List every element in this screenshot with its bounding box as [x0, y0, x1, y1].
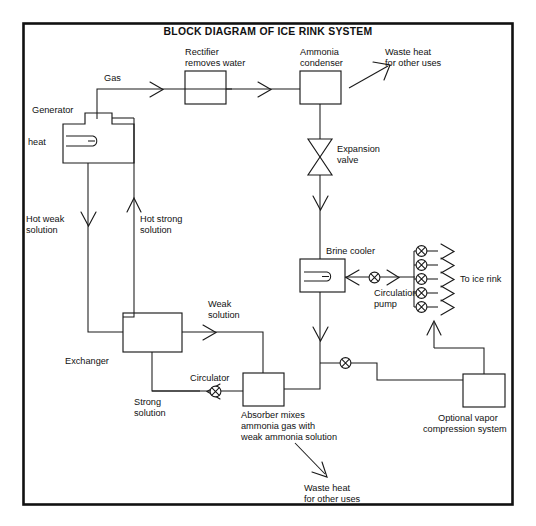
block-generator	[63, 113, 134, 163]
icon-circulation-pump	[369, 272, 380, 283]
label-expansion-line1: Expansion	[337, 144, 380, 154]
label-absorber-line3: weak ammonia solution	[240, 432, 337, 442]
block-rectifier	[185, 71, 226, 104]
label-exchanger: Exchanger	[65, 356, 109, 366]
icon-expansion-valve	[308, 139, 332, 175]
label-waste-heat-bottom-line1: Waste heat	[304, 483, 351, 493]
label-circulator: Circulator	[190, 373, 229, 383]
pipe-vapor-riser-horizontal	[434, 348, 484, 374]
block-ammonia-condenser	[300, 71, 341, 104]
label-waste-heat-top-line2: for other uses	[385, 58, 442, 68]
label-absorber-line2: ammonia gas with	[241, 421, 315, 431]
pipe-hot-strong-solution	[123, 118, 134, 317]
diagram-canvas: BLOCK DIAGRAM OF ICE RINK SYSTEM Gas Rec…	[0, 0, 536, 526]
label-vapor-line2: compression system	[423, 424, 507, 434]
label-heat: heat	[28, 137, 46, 147]
label-strong-line1: Strong	[134, 397, 161, 407]
label-hot-weak-line2: solution	[26, 225, 58, 235]
manifold-branch	[414, 258, 454, 273]
block-vapor-compression	[463, 374, 505, 407]
block-absorber	[243, 373, 284, 406]
label-weak-line1: Weak	[208, 299, 232, 309]
label-gas: Gas	[104, 73, 121, 83]
label-hot-strong-line2: solution	[140, 225, 172, 235]
pipe-absorber-to-riser	[284, 363, 320, 389]
block-exchanger	[123, 313, 182, 352]
block-diagram-svg: BLOCK DIAGRAM OF ICE RINK SYSTEM Gas Rec…	[0, 0, 536, 526]
label-hot-strong-line1: Hot strong	[140, 214, 182, 224]
icon-low-pressure-valve	[340, 358, 351, 369]
pipe-weak-solution	[182, 332, 263, 373]
label-circulation-line1: Circulation	[374, 288, 417, 298]
pipe-hot-weak-solution	[88, 163, 123, 332]
label-circulation-line2: pump	[374, 299, 397, 309]
label-waste-heat-bottom-line2: for other uses	[304, 494, 361, 504]
label-to-ice-rink: To ice rink	[460, 274, 502, 284]
pipe-exchanger-to-strong	[152, 352, 200, 391]
label-vapor-line1: Optional vapor	[438, 413, 498, 423]
manifold-branch	[414, 286, 454, 301]
label-rectifier-line2: removes water	[185, 58, 245, 68]
manifold-branch	[414, 300, 454, 315]
label-generator: Generator	[32, 105, 73, 115]
icon-circulator-pump	[210, 386, 221, 397]
arrow-waste-heat-top	[349, 66, 388, 88]
label-condenser-line1: Ammonia	[300, 47, 340, 57]
block-brine-cooler	[300, 259, 345, 292]
label-condenser-line2: condenser	[300, 58, 343, 68]
label-expansion-line2: valve	[337, 155, 358, 165]
label-absorber-line1: Absorber mixes	[241, 410, 305, 420]
arrow-waste-heat-bottom	[295, 443, 325, 474]
label-brine-cooler: Brine cooler	[326, 246, 375, 256]
manifold-branch	[414, 272, 454, 287]
arrowhead-waste-heat-bottom	[312, 462, 327, 477]
label-rectifier-line1: Rectifier	[185, 47, 219, 57]
label-waste-heat-top-line1: Waste heat	[385, 47, 432, 57]
label-weak-line2: solution	[208, 310, 240, 320]
label-strong-line2: solution	[134, 408, 166, 418]
diagram-title: BLOCK DIAGRAM OF ICE RINK SYSTEM	[164, 26, 373, 37]
manifold-branch	[414, 244, 454, 259]
label-hot-weak-line1: Hot weak	[26, 214, 65, 224]
